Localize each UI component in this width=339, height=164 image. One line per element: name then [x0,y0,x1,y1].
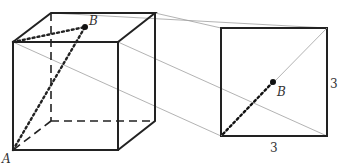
square-side-bottom-label: 3 [270,141,278,155]
square-point-b [270,79,276,85]
cube-label-a: A [1,152,11,164]
square-label-b: B [276,85,286,99]
cube-dotted-paths [13,27,85,150]
cube-point-b [82,24,88,30]
cube-right-face [118,13,155,150]
cube [13,13,155,150]
cube-label-b: B [88,14,98,28]
projection-line [155,13,221,28]
projection-line [118,42,327,136]
projection-lines [13,13,327,136]
cube-hidden-edges [13,13,155,150]
face-square [221,28,327,136]
square-side-right-label: 3 [330,77,338,91]
diagram-canvas: B A B 3 3 [0,0,339,164]
